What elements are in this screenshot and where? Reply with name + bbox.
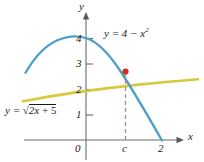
sqrt-overbar <box>29 104 57 105</box>
y-tick-label-3: 3 <box>76 58 82 69</box>
sqrt-radicand-term: 2x <box>29 104 39 116</box>
x-tick-label-2: 2 <box>158 143 164 154</box>
x-tick-label-0: 0 <box>75 143 81 154</box>
y-axis-label: y <box>79 1 84 12</box>
x-tick-label-c: c <box>122 143 127 154</box>
y-tick-marks <box>86 39 93 116</box>
y-tick-label-1: 1 <box>76 109 82 120</box>
intersection-point <box>122 68 128 74</box>
y-axis-arrowhead <box>83 12 89 20</box>
plot-svg <box>0 0 204 162</box>
sqrt-equation-label: y = √2x + 5 <box>5 105 56 116</box>
figure-canvas: y x 0 c 2 4 3 2 1 y = 4 − x2 y = √2x + 5 <box>0 0 204 162</box>
sqrt-equation-lhs: y = <box>5 104 20 116</box>
parabola-equation-text: y = 4 − x <box>104 27 145 39</box>
sqrt-radicand: 2x + 5 <box>29 105 57 116</box>
parabola-equation-label: y = 4 − x2 <box>104 27 149 39</box>
parabola-curve <box>26 36 163 140</box>
sqrt-curve <box>23 79 198 101</box>
x-axis-arrowhead <box>177 137 185 143</box>
y-tick-label-2: 2 <box>76 84 82 95</box>
sqrt-radicand-const: + 5 <box>42 104 56 116</box>
x-axis-label: x <box>188 131 193 142</box>
y-axis <box>83 12 89 160</box>
parabola-equation-exponent: 2 <box>145 26 149 34</box>
y-tick-label-4: 4 <box>76 33 82 44</box>
